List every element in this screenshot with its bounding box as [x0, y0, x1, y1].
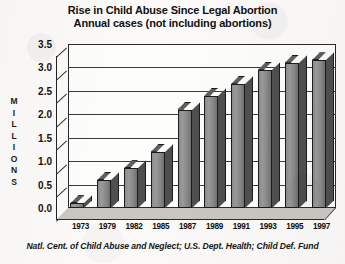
y-axis-tick-label: 2.0	[26, 109, 52, 120]
bar	[178, 110, 192, 208]
chart-title-block: Rise in Child Abuse Since Legal Abortion…	[0, 4, 345, 30]
bar-top-face	[312, 52, 326, 60]
y-axis-title-letter: N	[6, 165, 22, 177]
plot-area	[56, 44, 336, 220]
chart-page: Rise in Child Abuse Since Legal Abortion…	[0, 0, 345, 264]
y-axis-title-letter: S	[6, 177, 22, 189]
bar-front-face	[178, 110, 192, 208]
bar-top-face	[178, 102, 192, 110]
bar-side-face	[138, 161, 146, 208]
bar-side-face	[111, 172, 119, 208]
y-axis-tick-label: 0.5	[26, 179, 52, 190]
x-axis-tick-label: 1993	[259, 222, 276, 231]
chart-subtitle: Annual cases (not including abortions)	[0, 17, 345, 30]
bar-side-face	[165, 144, 173, 208]
x-axis-tick-label: 1997	[313, 222, 330, 231]
x-axis-tick-label: 1991	[233, 222, 250, 231]
bar	[231, 84, 245, 208]
y-axis-title-letter: L	[6, 119, 22, 131]
bar-side-face	[272, 62, 280, 208]
bar-top-face	[70, 195, 84, 203]
x-axis-tick-label: 1973	[72, 222, 89, 231]
y-axis-title: MILLIONS	[6, 96, 22, 188]
x-axis-tick-label: 1982	[125, 222, 142, 231]
bar-top-face	[151, 144, 165, 152]
bar-side-face	[84, 196, 92, 208]
bar-side-face	[326, 53, 334, 208]
bar-front-face	[124, 168, 138, 208]
bar-top-face	[204, 88, 218, 96]
bar-top-face	[258, 62, 272, 70]
bar-side-face	[299, 55, 307, 208]
bar-top-face	[124, 160, 138, 168]
bar-side-face	[218, 88, 226, 208]
y-axis-title-letter: I	[6, 108, 22, 120]
x-axis-tick-label: 1989	[206, 222, 223, 231]
bar-top-face	[231, 76, 245, 84]
bar	[151, 152, 165, 208]
bar	[97, 180, 111, 208]
y-axis-tick-label: 0.0	[26, 203, 52, 214]
y-axis-tick-label: 1.0	[26, 156, 52, 167]
plot-floor	[56, 208, 336, 220]
bar-series	[68, 44, 336, 208]
x-axis-tick-labels: 1973197919821985198719891991199319951997	[56, 222, 336, 236]
y-axis-title-letter: M	[6, 96, 22, 108]
x-axis-tick-label: 1987	[179, 222, 196, 231]
source-note: Natl. Cent. of Child Abuse and Neglect; …	[0, 241, 345, 251]
y-axis-tick-labels: 3.53.02.52.01.51.00.50.0	[26, 33, 52, 233]
x-axis-tick-label: 1995	[286, 222, 303, 231]
chart-area: 3.53.02.52.01.51.00.50.0 197319791982198…	[26, 33, 338, 233]
bar-front-face	[258, 70, 272, 208]
bar-front-face	[97, 180, 111, 208]
bar-front-face	[151, 152, 165, 208]
y-axis-tick-label: 3.5	[26, 39, 52, 50]
y-axis-tick-label: 3.0	[26, 62, 52, 73]
bar-front-face	[312, 60, 326, 208]
bar-side-face	[192, 102, 200, 208]
bar-side-face	[245, 76, 253, 208]
floor-front-edge	[56, 219, 324, 220]
y-axis-title-letter: L	[6, 131, 22, 143]
y-axis-title-letter: O	[6, 154, 22, 166]
chart-title: Rise in Child Abuse Since Legal Abortion	[0, 4, 345, 17]
bar-front-face	[204, 96, 218, 208]
bar-front-face	[231, 84, 245, 208]
y-axis-tick-label: 1.5	[26, 132, 52, 143]
bar	[285, 63, 299, 208]
bar-top-face	[97, 172, 111, 180]
y-axis-tick-label: 2.5	[26, 85, 52, 96]
bar-front-face	[285, 63, 299, 208]
bar	[258, 70, 272, 208]
bar-top-face	[285, 55, 299, 63]
x-axis-tick-label: 1985	[152, 222, 169, 231]
x-axis-tick-label: 1979	[99, 222, 116, 231]
bar	[312, 60, 326, 208]
y-axis-title-letter: I	[6, 142, 22, 154]
bar	[124, 168, 138, 208]
bar	[204, 96, 218, 208]
